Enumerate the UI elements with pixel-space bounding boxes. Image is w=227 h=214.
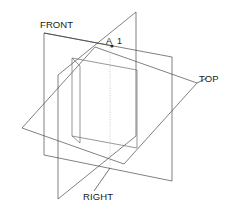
front-plane-label: FRONT [40, 20, 73, 30]
object-outline [72, 58, 137, 148]
point-a-label: A [106, 36, 112, 46]
point-number-label: 1 [117, 36, 122, 46]
projection-planes-drawing [0, 0, 227, 214]
top-plane-outline [22, 47, 197, 164]
technical-drawing-figure: FRONT TOP RIGHT A 1 [0, 0, 227, 214]
front-leader-line [44, 33, 113, 46]
right-leader-line [94, 168, 110, 191]
right-plane-outline [58, 12, 136, 199]
top-plane-label: TOP [199, 74, 219, 84]
right-plane-label: RIGHT [83, 192, 113, 202]
